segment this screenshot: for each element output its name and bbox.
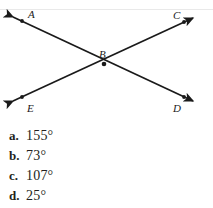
question-page: A C B E D a.155° b.73° c.107° d.25° — [0, 0, 213, 208]
answer-option-d[interactable]: d.25° — [9, 185, 46, 205]
answer-option-a[interactable]: a.155° — [9, 125, 53, 145]
point-label-c: C — [173, 9, 181, 21]
point-label-e: E — [26, 102, 34, 114]
answer-value-b: 73° — [26, 146, 46, 166]
answer-option-b[interactable]: b.73° — [9, 145, 46, 165]
answer-value-a: 155° — [26, 126, 53, 146]
point-dot-b — [102, 62, 107, 67]
answer-option-c[interactable]: c.107° — [9, 165, 53, 185]
answer-value-c: 107° — [26, 166, 53, 186]
point-label-d: D — [172, 102, 181, 114]
point-dot-c — [182, 20, 186, 24]
answer-letter-b: b. — [9, 146, 26, 166]
answer-letter-c: c. — [9, 166, 26, 186]
point-dot-d — [182, 95, 186, 99]
answer-letter-a: a. — [9, 126, 26, 146]
geometry-figure: A C B E D — [0, 0, 213, 122]
answer-letter-d: d. — [9, 186, 26, 206]
point-label-b: B — [99, 48, 106, 60]
answer-choices: a.155° b.73° c.107° d.25° — [0, 122, 213, 208]
point-dot-a — [20, 19, 24, 23]
point-label-a: A — [27, 8, 35, 20]
point-dot-e — [20, 95, 24, 99]
answer-value-d: 25° — [26, 186, 46, 206]
